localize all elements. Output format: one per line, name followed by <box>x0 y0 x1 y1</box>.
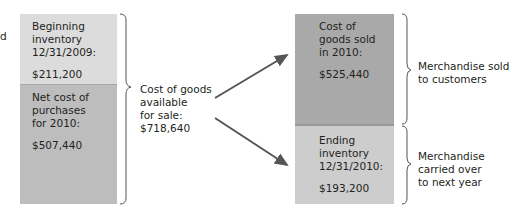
right-brace-top <box>402 14 411 124</box>
connectors <box>0 0 515 220</box>
left-brace <box>120 14 131 204</box>
right-brace-bottom <box>402 126 411 204</box>
arrow-to-ending <box>215 118 287 165</box>
arrow-to-cogs <box>215 55 287 98</box>
